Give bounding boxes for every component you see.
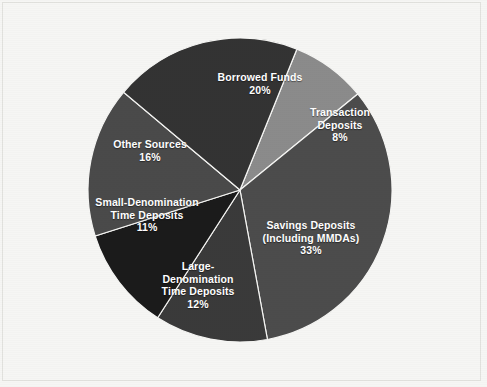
- pie-svg: [0, 0, 487, 387]
- chart-page: TransactionDeposits8%Savings Deposits(In…: [0, 0, 487, 387]
- pie-slice-group: [88, 38, 392, 342]
- pie-chart: TransactionDeposits8%Savings Deposits(In…: [0, 0, 487, 387]
